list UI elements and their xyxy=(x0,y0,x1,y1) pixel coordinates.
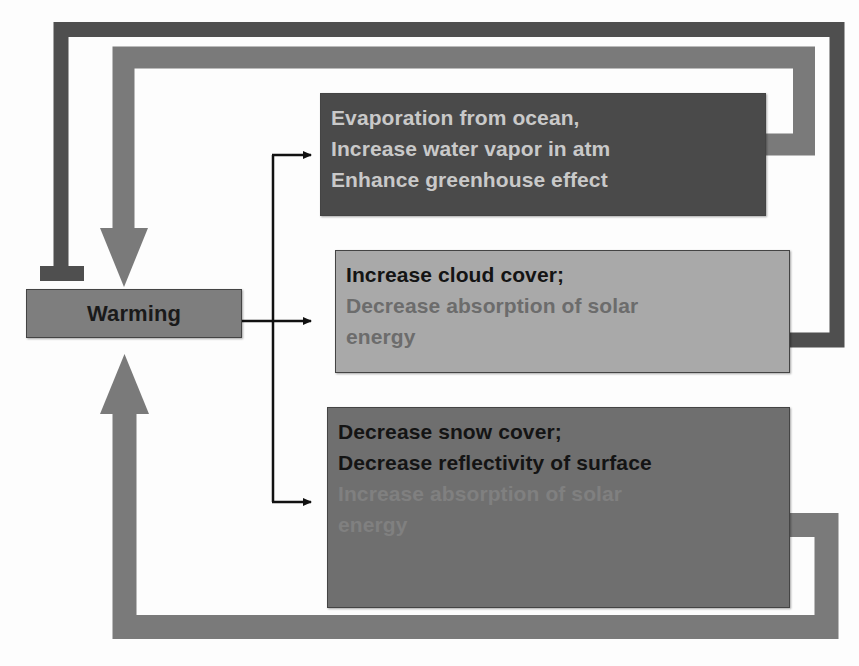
evaporation-line-3: Enhance greenhouse effect xyxy=(331,164,755,195)
cloud-node: Increase cloud cover; Decrease absorptio… xyxy=(335,250,790,373)
snow-line-4: energy xyxy=(338,509,779,540)
cloud-line-3: energy xyxy=(346,321,779,352)
evaporation-node: Evaporation from ocean, Increase water v… xyxy=(320,93,766,216)
evaporation-line-2: Increase water vapor in atm xyxy=(331,133,755,164)
cloud-line-1: Increase cloud cover; xyxy=(346,259,779,290)
warming-label: Warming xyxy=(87,301,181,326)
warming-connectors xyxy=(242,155,311,502)
snow-line-3: Increase absorption of solar xyxy=(338,478,779,509)
up-arrow-head xyxy=(100,354,149,414)
warming-node: Warming xyxy=(26,289,242,338)
snow-node: Decrease snow cover; Decrease reflectivi… xyxy=(327,407,790,608)
inhibit-t-bar xyxy=(40,266,84,281)
snow-line-2: Decrease reflectivity of surface xyxy=(338,447,779,478)
cloud-line-2: Decrease absorption of solar xyxy=(346,290,779,321)
evaporation-line-1: Evaporation from ocean, xyxy=(331,102,755,133)
snow-line-1: Decrease snow cover; xyxy=(338,416,779,447)
down-arrow-head xyxy=(100,228,148,287)
